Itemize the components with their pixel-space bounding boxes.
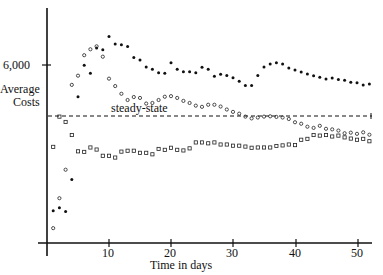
data-points	[52, 35, 371, 230]
filled-dots-point	[176, 68, 179, 71]
open-squares-point	[151, 153, 154, 156]
open-squares-point	[238, 144, 241, 147]
open-circles-point	[300, 122, 303, 125]
open-circles-point	[269, 115, 272, 118]
open-squares-point	[225, 143, 228, 146]
open-circles-point	[324, 127, 327, 130]
open-squares-point	[114, 156, 117, 159]
open-circles-point	[219, 105, 222, 108]
open-squares-point	[312, 133, 315, 136]
open-squares-point	[194, 141, 197, 144]
filled-dots-point	[244, 84, 247, 87]
open-circles-point	[312, 126, 315, 129]
filled-dots-point	[101, 48, 104, 51]
open-circles-point	[362, 131, 365, 134]
open-circles-point	[58, 197, 61, 200]
open-squares-point	[188, 147, 191, 150]
filled-dots-point	[349, 81, 352, 84]
open-circles-point	[238, 112, 241, 115]
filled-dots-point	[151, 68, 154, 71]
open-circles-point	[176, 96, 179, 99]
open-squares-point	[349, 137, 352, 140]
open-circles-point	[114, 84, 117, 87]
open-squares-point	[213, 141, 216, 144]
filled-dots-point	[281, 63, 284, 66]
filled-dots-point	[139, 58, 142, 61]
open-circles-point	[262, 115, 265, 118]
open-squares-point	[101, 154, 104, 157]
open-squares-point	[250, 146, 253, 149]
open-circles-point	[169, 95, 172, 98]
filled-dots-point	[194, 71, 197, 74]
filled-dots-point	[120, 43, 123, 46]
filled-dots-point	[306, 72, 309, 75]
filled-dots-point	[356, 81, 359, 84]
open-squares-point	[219, 143, 222, 146]
filled-dots-point	[52, 209, 55, 212]
open-circles-point	[213, 103, 216, 106]
open-squares-point	[256, 146, 259, 149]
filled-dots-point	[132, 56, 135, 59]
open-circles-point	[231, 110, 234, 113]
filled-dots-point	[294, 69, 297, 72]
open-circles-point	[331, 128, 334, 131]
filled-dots-point	[263, 66, 266, 69]
open-squares-point	[207, 142, 210, 145]
filled-dots-point	[232, 76, 235, 79]
filled-dots-point	[238, 80, 241, 83]
filled-dots-point	[269, 63, 272, 66]
open-circles-point	[355, 132, 358, 135]
scatter-chart	[0, 0, 383, 275]
filled-dots-point	[225, 74, 228, 77]
open-circles-point	[349, 131, 352, 134]
y-axis-title-line2: Costs	[13, 96, 40, 109]
open-squares-point	[368, 140, 371, 143]
open-squares-point	[176, 148, 179, 151]
open-circles-point	[306, 125, 309, 128]
filled-dots-point	[250, 84, 253, 87]
open-squares-point	[269, 146, 272, 149]
open-circles-point	[343, 132, 346, 135]
filled-dots-point	[157, 71, 160, 74]
open-squares-point	[157, 147, 160, 150]
filled-dots-point	[331, 77, 334, 80]
y-tick-label-6000: 6,000	[3, 59, 30, 72]
open-circles-point	[256, 116, 259, 119]
open-squares-point	[120, 150, 123, 153]
filled-dots-point	[126, 45, 129, 48]
filled-dots-point	[207, 68, 210, 71]
filled-dots-point	[163, 72, 166, 75]
filled-dots-point	[70, 178, 73, 181]
open-squares-point	[324, 133, 327, 136]
filled-dots-point	[77, 95, 80, 98]
open-circles-point	[293, 121, 296, 124]
open-circles-point	[200, 105, 203, 108]
steady-state-label: steady-state	[111, 102, 168, 115]
open-circles-point	[163, 95, 166, 98]
open-circles-point	[120, 92, 123, 95]
x-axis-title: Time in days	[150, 259, 212, 272]
open-squares-point	[70, 133, 73, 136]
filled-dots-point	[343, 79, 346, 82]
open-circles-point	[368, 133, 371, 136]
open-squares-point	[306, 137, 309, 140]
open-squares-point	[76, 150, 79, 153]
open-circles-point	[318, 124, 321, 127]
filled-dots-point	[114, 42, 117, 45]
open-squares-point	[132, 149, 135, 152]
filled-dots-point	[287, 66, 290, 69]
open-circles-point	[182, 99, 185, 102]
filled-dots-point	[83, 64, 86, 67]
filled-dots-point	[300, 71, 303, 74]
open-circles-point	[101, 55, 104, 58]
open-squares-point	[262, 146, 265, 149]
open-circles-point	[83, 54, 86, 57]
open-circles-point	[207, 103, 210, 106]
open-circles-point	[89, 48, 92, 51]
open-circles-point	[64, 168, 67, 171]
open-squares-point	[355, 138, 358, 141]
open-squares-point	[200, 141, 203, 144]
open-circles-point	[275, 115, 278, 118]
filled-dots-point	[256, 74, 259, 77]
open-squares-point	[337, 134, 340, 137]
